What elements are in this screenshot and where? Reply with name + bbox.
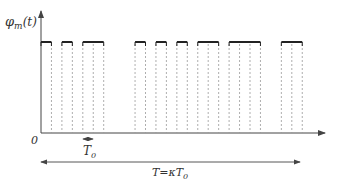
y-axis-label: φm(t) <box>5 14 37 31</box>
total-period-marker: T=κT0 <box>41 162 300 181</box>
total-period-label: T=κT0 <box>152 166 188 181</box>
unit-period-label: T0 <box>83 144 96 160</box>
pulse-train-diagram: φm(t) 0 T0 T=κT0 <box>0 0 340 185</box>
unit-period-marker: T0 <box>83 139 96 160</box>
pulse-group <box>41 42 302 133</box>
origin-label: 0 <box>31 134 38 147</box>
